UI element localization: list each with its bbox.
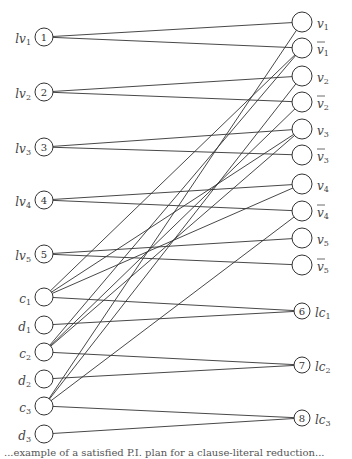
node-circle bbox=[292, 255, 312, 275]
node-circle bbox=[35, 425, 53, 443]
node-label: v1 bbox=[317, 43, 329, 58]
node-circle bbox=[292, 201, 312, 221]
node-circle bbox=[292, 38, 312, 58]
node-circle bbox=[292, 145, 312, 165]
node-n7: 7lc2 bbox=[294, 357, 331, 375]
node-n2: 2lv2 bbox=[15, 83, 53, 102]
edge-c2-n7 bbox=[44, 352, 302, 365]
node-label: lv4 bbox=[15, 195, 31, 210]
node-c3: c3 bbox=[19, 397, 53, 416]
node-number: 3 bbox=[41, 142, 47, 153]
node-label: d1 bbox=[18, 320, 31, 335]
node-number: 4 bbox=[41, 195, 47, 206]
figure-caption: ...example of a satisfied P.I. plan for … bbox=[4, 447, 352, 458]
edge-n1-nv1 bbox=[44, 37, 302, 48]
node-label: v5 bbox=[317, 233, 329, 248]
node-label: v2 bbox=[317, 97, 329, 112]
node-nv1: v1 bbox=[292, 38, 329, 58]
node-d2: d2 bbox=[18, 370, 53, 389]
node-label: lv1 bbox=[15, 32, 31, 47]
node-circle bbox=[35, 397, 53, 415]
node-label: c2 bbox=[19, 347, 31, 362]
node-n8: 8lc3 bbox=[294, 410, 331, 428]
node-v4: v4 bbox=[292, 174, 329, 194]
edge-c2-nv2 bbox=[44, 102, 302, 352]
node-n3: 3lv3 bbox=[15, 138, 53, 157]
node-label: d3 bbox=[18, 429, 31, 444]
node-number: 6 bbox=[299, 306, 305, 317]
edge-c3-n8 bbox=[44, 406, 302, 418]
node-number: 5 bbox=[41, 249, 47, 260]
node-nv2: v2 bbox=[292, 92, 329, 112]
node-d1: d1 bbox=[18, 316, 53, 335]
edge-c3-v2 bbox=[44, 76, 302, 406]
edge-n3-v3 bbox=[44, 129, 302, 147]
node-nv3: v3 bbox=[292, 145, 329, 165]
node-label: v3 bbox=[317, 150, 329, 165]
node-n5: 5lv5 bbox=[15, 245, 53, 264]
node-label: v2 bbox=[317, 71, 329, 86]
node-number: 7 bbox=[299, 360, 305, 371]
bipartite-reduction-diagram: 1lv12lv23lv34lv45lv5c1d1c2d2c3d3v1v1v2v2… bbox=[0, 0, 352, 459]
edge-d3-n8 bbox=[44, 418, 302, 434]
node-number: 2 bbox=[41, 87, 47, 98]
node-number: 8 bbox=[299, 413, 305, 424]
node-nv5: v5 bbox=[292, 255, 329, 275]
node-circle bbox=[35, 316, 53, 334]
node-label: v4 bbox=[317, 179, 329, 194]
edge-n2-v2 bbox=[44, 76, 302, 92]
node-label: v4 bbox=[317, 206, 329, 221]
node-n1: 1lv1 bbox=[15, 28, 53, 47]
node-label: lv3 bbox=[15, 142, 31, 157]
node-n4: 4lv4 bbox=[15, 191, 53, 210]
node-circle bbox=[292, 174, 312, 194]
node-label: c3 bbox=[19, 401, 31, 416]
node-label: lv5 bbox=[15, 249, 31, 264]
node-v2: v2 bbox=[292, 66, 329, 86]
node-n6: 6lc1 bbox=[294, 303, 331, 321]
node-circle bbox=[292, 92, 312, 112]
edge-c3-v1 bbox=[44, 22, 302, 406]
node-c1: c1 bbox=[19, 288, 53, 307]
node-v3: v3 bbox=[292, 119, 329, 139]
node-c2: c2 bbox=[19, 343, 53, 362]
node-v1: v1 bbox=[292, 12, 329, 32]
node-label: lc3 bbox=[315, 413, 331, 428]
node-label: c1 bbox=[19, 292, 31, 307]
edge-n1-v1 bbox=[44, 22, 302, 37]
node-label: d2 bbox=[18, 374, 31, 389]
node-circle bbox=[35, 343, 53, 361]
edge-n4-nv4 bbox=[44, 200, 302, 211]
node-label: lc1 bbox=[315, 306, 331, 321]
node-circle bbox=[35, 370, 53, 388]
node-label: lv2 bbox=[15, 87, 31, 102]
node-circle bbox=[292, 119, 312, 139]
node-circle bbox=[292, 12, 312, 32]
node-circle bbox=[35, 288, 53, 306]
node-number: 1 bbox=[41, 32, 47, 43]
node-label: v1 bbox=[317, 17, 329, 32]
node-label: v3 bbox=[317, 124, 329, 139]
node-d3: d3 bbox=[18, 425, 53, 444]
node-nv4: v4 bbox=[292, 201, 329, 221]
edges bbox=[44, 22, 302, 434]
node-label: v5 bbox=[317, 260, 329, 275]
edge-c1-v3 bbox=[44, 129, 302, 297]
node-circle bbox=[292, 228, 312, 248]
node-label: lc2 bbox=[315, 360, 331, 375]
edge-n4-v4 bbox=[44, 184, 302, 200]
node-v5: v5 bbox=[292, 228, 329, 248]
node-circle bbox=[292, 66, 312, 86]
